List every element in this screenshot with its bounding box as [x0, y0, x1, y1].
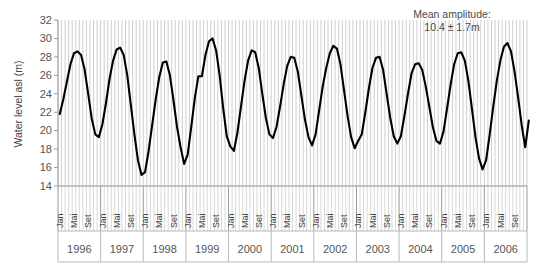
annotation-line-2: 10.4 ± 1.7m [424, 21, 480, 33]
year-tick-label: 2003 [366, 243, 390, 255]
month-tick-label: Set [211, 214, 221, 228]
series-line-water-level [60, 38, 529, 174]
year-tick-label: 2006 [493, 243, 517, 255]
y-tick-label: 18 [40, 143, 52, 155]
y-tick-label: 22 [40, 106, 52, 118]
month-tick-label: Jan [311, 213, 321, 228]
month-tick-label: Set [169, 214, 179, 228]
month-tick-label: Mai [496, 213, 506, 228]
month-tick-label: Set [126, 214, 136, 228]
y-tick-label: 30 [40, 32, 52, 44]
month-tick-label: Mai [282, 213, 292, 228]
series-water-level [60, 38, 529, 174]
y-axis-label-text: Water level asl (m) [12, 60, 24, 147]
year-tick-label: 1998 [152, 243, 176, 255]
month-tick-label: Set [510, 214, 520, 228]
month-tick-label: Set [424, 214, 434, 228]
month-tick-label: Mai [453, 213, 463, 228]
year-tick-label: 2005 [451, 243, 475, 255]
month-tick-label: Set [254, 214, 264, 228]
month-tick-label: Jan [439, 213, 449, 228]
month-tick-label: Jan [396, 213, 406, 228]
month-tick-label: Mai [410, 213, 420, 228]
month-tick-label: Set [382, 214, 392, 228]
month-tick-label: Jan [353, 213, 363, 228]
annotation-line-1: Mean amplitude: [413, 8, 491, 20]
month-tick-label: Set [297, 214, 307, 228]
year-tick-label: 1999 [195, 243, 219, 255]
month-tick-label: Mai [197, 213, 207, 228]
y-tick-label: 24 [40, 88, 52, 100]
y-tick-label: 20 [40, 124, 52, 136]
year-tick-label: 2002 [323, 243, 347, 255]
month-tick-label: Mai [154, 213, 164, 228]
year-tick-label: 2000 [238, 243, 262, 255]
month-tick-label: Mai [240, 213, 250, 228]
year-tick-label: 1996 [67, 243, 91, 255]
month-tick-label: Jan [481, 213, 491, 228]
month-tick-label: Mai [69, 213, 79, 228]
month-tick-label: Jan [268, 213, 278, 228]
month-tick-label: Jan [226, 213, 236, 228]
chart-svg: Water level asl (m) 32 30 28 26 24 22 20… [0, 0, 540, 269]
y-tick-labels: 32 30 28 26 24 22 20 18 16 14 [40, 14, 52, 192]
y-tick-label: 16 [40, 161, 52, 173]
month-tick-label: Mai [368, 213, 378, 228]
y-tick-label: 26 [40, 69, 52, 81]
month-tick-label: Jan [55, 213, 65, 228]
month-tick-label: Mai [325, 213, 335, 228]
x-axis-label-table: JanMaiSetJanMaiSetJanMaiSetJanMaiSetJanM… [55, 186, 527, 262]
month-tick-label: Set [339, 214, 349, 228]
plot-gridlines [58, 20, 527, 186]
mean-amplitude-annotation: Mean amplitude: 10.4 ± 1.7m [413, 8, 491, 33]
y-axis-label: Water level asl (m) [12, 60, 24, 147]
month-tick-label: Jan [183, 213, 193, 228]
year-tick-label: 2001 [280, 243, 304, 255]
year-tick-label: 2004 [408, 243, 432, 255]
month-tick-label: Jan [140, 213, 150, 228]
year-tick-label: 1997 [110, 243, 134, 255]
month-tick-label: Set [83, 214, 93, 228]
water-level-chart: Water level asl (m) 32 30 28 26 24 22 20… [0, 0, 540, 269]
y-tick-label: 14 [40, 180, 52, 192]
y-tick-label: 32 [40, 14, 52, 26]
month-tick-label: Set [467, 214, 477, 228]
month-tick-label: Jan [98, 213, 108, 228]
month-tick-label: Mai [112, 213, 122, 228]
y-tick-label: 28 [40, 51, 52, 63]
